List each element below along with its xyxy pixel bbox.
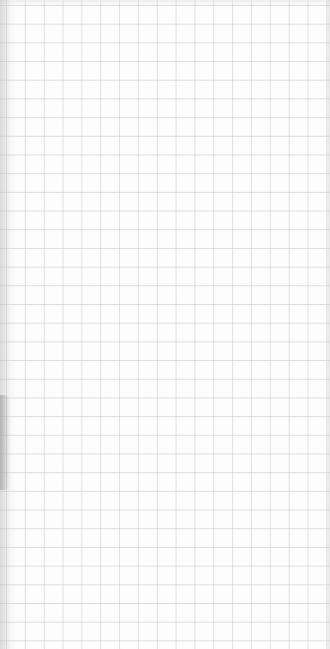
grid-lines xyxy=(0,0,330,649)
grid-paper-sheet xyxy=(0,0,330,649)
right-edge-shadow xyxy=(326,0,330,649)
top-edge-shadow xyxy=(0,0,330,5)
left-edge-shadow xyxy=(0,0,16,649)
left-edge-dark-shadow xyxy=(0,395,10,490)
